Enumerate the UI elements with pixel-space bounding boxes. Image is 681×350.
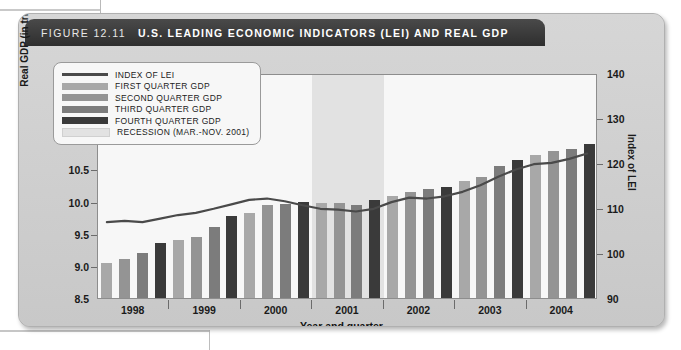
legend-swatch: [62, 106, 108, 113]
legend-label: FOURTH QUARTER GDP: [115, 116, 221, 126]
y-axis-right-tick-label: 140: [607, 68, 625, 80]
legend-item: INDEX OF LEI: [62, 69, 250, 81]
decorative-rule-bottom-tick: [209, 330, 210, 350]
y-axis-right-tick-mark: [597, 119, 603, 120]
legend-label: RECESSION (MAR.-NOV. 2001): [117, 127, 250, 137]
x-axis-year-separator: [526, 300, 527, 309]
legend-label: THIRD QUARTER GDP: [115, 104, 211, 114]
legend-swatch: [62, 128, 110, 137]
y-axis-left-title: Real GDP (in trillions of 2000 dollars): [19, 13, 30, 94]
legend-swatch: [62, 73, 108, 76]
y-axis-right-tick-label: 100: [607, 248, 625, 260]
decorative-rule-bottom: [0, 330, 210, 332]
legend-label: SECOND QUARTER GDP: [115, 93, 222, 103]
x-axis-year-separator: [454, 300, 455, 309]
x-axis-year-separator: [168, 300, 169, 309]
legend-rows: INDEX OF LEIFIRST QUARTER GDPSECOND QUAR…: [62, 69, 250, 138]
y-axis-left-tick-label: 10.5: [69, 164, 89, 176]
y-axis-left-tick-label: 9.0: [74, 261, 89, 273]
legend-label: FIRST QUARTER GDP: [115, 81, 210, 91]
y-axis-right-tick-mark: [597, 164, 603, 165]
x-axis-year-label: 1999: [192, 304, 215, 316]
x-axis-year-separator: [311, 300, 312, 309]
legend-swatch: [62, 83, 108, 90]
y-axis-right-tick-mark: [597, 254, 603, 255]
y-axis-left-tick-label: 10.0: [69, 197, 89, 209]
legend-item: FIRST QUARTER GDP: [62, 81, 250, 93]
x-axis-year-label: 2003: [478, 304, 501, 316]
figure-title: U.S. LEADING ECONOMIC INDICATORS (LEI) A…: [138, 27, 509, 39]
y-axis-left-tick-label: 9.5: [74, 229, 89, 241]
legend-item: SECOND QUARTER GDP: [62, 92, 250, 104]
x-axis-year-label: 2001: [335, 304, 358, 316]
y-axis-left-tick-label: 8.5: [74, 293, 89, 305]
x-axis-year-label: 2004: [550, 304, 573, 316]
legend-swatch: [62, 94, 108, 101]
y-axis-right-tick-label: 110: [607, 203, 624, 215]
legend-item: FOURTH QUARTER GDP: [62, 115, 250, 127]
legend-item: THIRD QUARTER GDP: [62, 104, 250, 116]
figure-header: FIGURE 12.11 U.S. LEADING ECONOMIC INDIC…: [25, 19, 545, 46]
y-axis-right-title: Index of LEI: [626, 134, 637, 191]
x-axis-year-label: 2000: [264, 304, 287, 316]
figure-root: FIGURE 12.11 U.S. LEADING ECONOMIC INDIC…: [0, 0, 681, 350]
x-axis-year-label: 2002: [407, 304, 430, 316]
x-axis-title: Year and quarter: [25, 320, 658, 327]
decorative-rule-top: [0, 9, 101, 11]
lei-line: [107, 153, 587, 222]
y-axis-right-tick-label: 90: [607, 293, 619, 305]
y-axis-right-tick-label: 120: [607, 158, 625, 170]
chart-legend: INDEX OF LEIFIRST QUARTER GDPSECOND QUAR…: [53, 62, 261, 145]
figure-card: FIGURE 12.11 U.S. LEADING ECONOMIC INDIC…: [18, 13, 665, 327]
figure-number: FIGURE 12.11: [41, 27, 126, 39]
legend-item: RECESSION (MAR.-NOV. 2001): [62, 127, 250, 139]
x-axis-year-separator: [383, 300, 384, 309]
x-axis-year-label: 1998: [121, 304, 144, 316]
y-axis-right-tick-label: 130: [607, 113, 625, 125]
legend-swatch: [62, 117, 108, 124]
chart-panel: Real GDP (in trillions of 2000 dollars) …: [25, 46, 658, 320]
x-axis-year-separator: [240, 300, 241, 309]
y-axis-right-tick-mark: [597, 209, 603, 210]
legend-label: INDEX OF LEI: [115, 70, 174, 80]
